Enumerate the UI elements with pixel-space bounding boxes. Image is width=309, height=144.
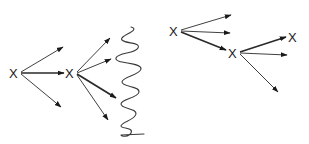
edge-n2-branch-3	[77, 74, 116, 98]
left-tree: X X	[9, 27, 144, 136]
node-n2: X	[65, 66, 74, 81]
branching-diagram: X X X X X	[0, 0, 309, 144]
edge-n4-mid	[240, 53, 287, 55]
edge-n4-n5	[240, 37, 286, 52]
right-tree: X X X	[169, 15, 297, 92]
node-n3: X	[169, 24, 178, 39]
edge-n1-down	[21, 74, 61, 107]
node-n5: X	[288, 30, 297, 45]
node-n1: X	[9, 66, 18, 81]
edge-n3-up	[181, 15, 231, 30]
edge-n4-down	[240, 54, 278, 92]
node-n4: X	[228, 46, 237, 61]
edge-n1-up	[21, 47, 63, 72]
edge-n2-branch-2	[77, 59, 111, 73]
edge-n2-branch-4	[77, 75, 108, 120]
edge-n3-n4	[181, 32, 226, 50]
edge-n2-branch-1	[77, 38, 110, 72]
squiggle-barrier	[116, 27, 144, 136]
edge-n3-mid	[181, 31, 230, 33]
